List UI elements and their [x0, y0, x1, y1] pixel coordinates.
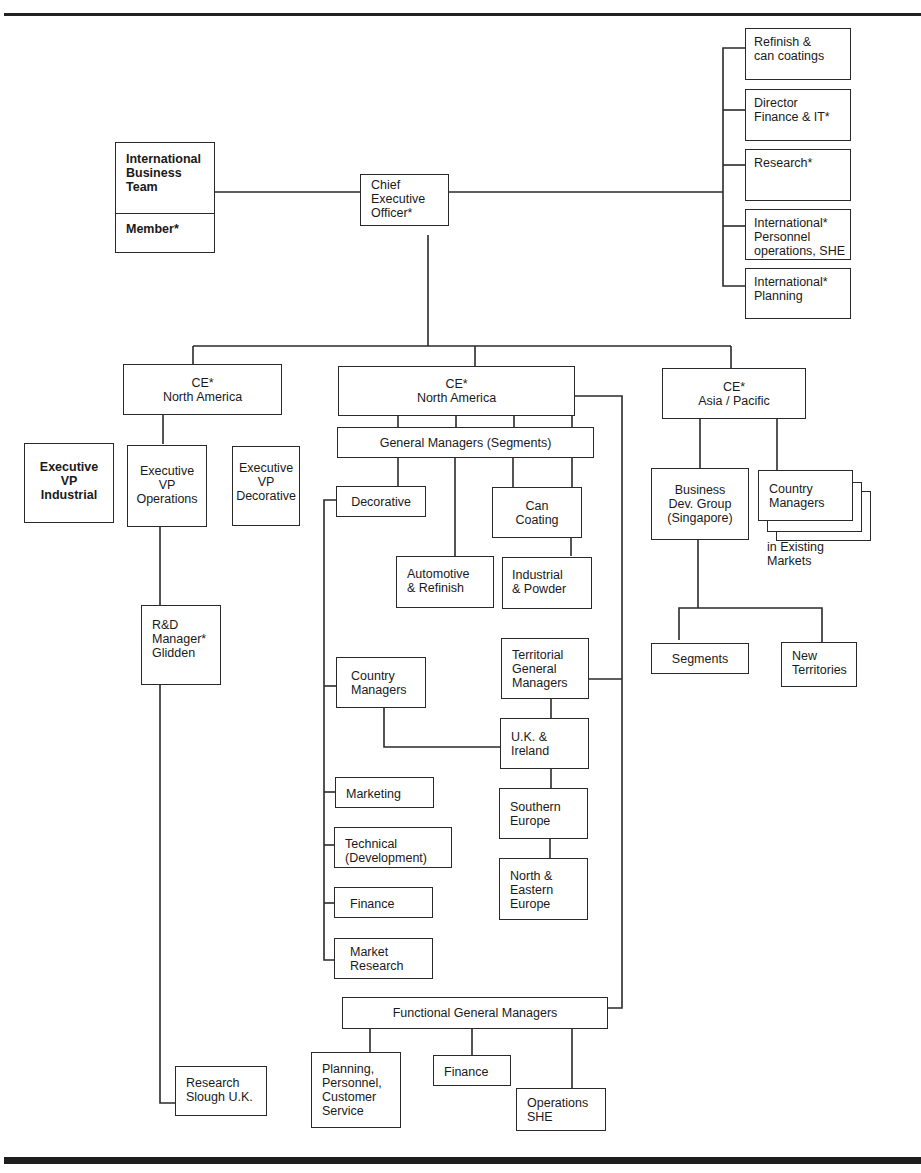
staff-research-box: Research*: [745, 149, 851, 201]
ceo-box: Chief Executive Officer*: [360, 174, 449, 226]
country-managers-europe-box: Country Managers: [336, 657, 426, 708]
gm-segments-box: General Managers (Segments): [337, 427, 594, 458]
staff-finance-it-box: Director Finance & IT*: [745, 89, 851, 141]
evp-industrial-box: Executive VP Industrial: [24, 443, 114, 523]
rd-label: R&D Manager* Glidden: [142, 606, 220, 660]
can-coating-box: Can Coating: [492, 487, 582, 538]
north-eastern-europe-box: North & Eastern Europe: [499, 858, 588, 920]
uk-ireland-box: U.K. & Ireland: [500, 718, 589, 769]
unit-label: Finance: [335, 888, 432, 911]
region-label: U.K. & Ireland: [501, 719, 588, 758]
staff-label: Refinish & can coatings: [746, 29, 850, 63]
region-label: North & Eastern Europe: [500, 859, 587, 911]
segment-label: Industrial & Powder: [503, 558, 591, 596]
ce-north-america-left-box: CE* North America: [123, 364, 282, 415]
evp-label: Executive VP Industrial: [40, 460, 98, 502]
segment-label: Decorative: [351, 495, 411, 509]
staff-label: Director Finance & IT*: [746, 90, 850, 124]
country-managers-asia-box: Country Managers: [758, 470, 853, 521]
unit-label: Technical (Development): [335, 828, 451, 865]
business-dev-group-box: Business Dev. Group (Singapore): [651, 468, 749, 540]
ibt-divider: [116, 213, 214, 214]
bdg-label: Business Dev. Group (Singapore): [667, 483, 732, 525]
region-label: Southern Europe: [500, 789, 587, 828]
ce-label: CE* North America: [417, 377, 496, 405]
evp-label: Executive VP Operations: [136, 464, 197, 506]
staff-refinish-box: Refinish & can coatings: [745, 28, 851, 80]
bottom-rule: [4, 1157, 921, 1164]
segment-label: Automotive & Refinish: [397, 557, 493, 595]
evp-decorative-box: Executive VP Decorative: [232, 446, 300, 526]
segments-asia-box: Segments: [651, 643, 749, 674]
research-slough-box: Research Slough U.K.: [175, 1066, 267, 1116]
automotive-refinish-box: Automotive & Refinish: [396, 556, 494, 608]
ce-asia-pacific-box: CE* Asia / Pacific: [662, 368, 806, 419]
new-territories-box: New Territories: [781, 642, 857, 687]
ibt-title: International Business Team: [116, 143, 214, 194]
territorial-gm-box: Territorial General Managers: [501, 638, 589, 699]
technical-development-box: Technical (Development): [334, 827, 452, 868]
staff-label: International* Personnel operations, SHE: [746, 210, 850, 258]
research-label: Research Slough U.K.: [176, 1067, 266, 1104]
staff-label: Research*: [746, 150, 850, 170]
industrial-powder-box: Industrial & Powder: [502, 557, 592, 609]
international-business-team-box: International Business Team Member*: [115, 142, 215, 253]
decorative-box: Decorative: [336, 486, 426, 517]
existing-markets-note: in Existing Markets: [767, 540, 824, 568]
segment-label: Can Coating: [515, 499, 558, 527]
finance-functional-box: Finance: [433, 1055, 511, 1086]
southern-europe-box: Southern Europe: [499, 788, 588, 839]
ce-north-america-middle-box: CE* North America: [338, 366, 575, 416]
staff-label: International* Planning: [746, 269, 850, 303]
functional-gm-box: Functional General Managers: [342, 997, 608, 1029]
unit-label: Market Research: [335, 939, 432, 973]
marketing-box: Marketing: [335, 777, 434, 808]
planning-personnel-box: Planning, Personnel, Customer Service: [311, 1052, 401, 1128]
evp-operations-box: Executive VP Operations: [127, 445, 207, 527]
new-territories-label: New Territories: [782, 643, 856, 677]
functional-unit-label: Finance: [434, 1056, 510, 1079]
functional-label: Functional General Managers: [393, 1006, 558, 1020]
ceo-label: Chief Executive Officer*: [361, 175, 448, 220]
segments-label: Segments: [672, 652, 728, 666]
unit-label: Country Managers: [337, 658, 425, 697]
territorial-label: Territorial General Managers: [502, 639, 588, 690]
staff-personnel-box: International* Personnel operations, SHE: [745, 209, 851, 260]
market-research-box: Market Research: [334, 938, 433, 979]
operations-she-box: Operations SHE: [516, 1088, 606, 1131]
functional-unit-label: Operations SHE: [517, 1089, 605, 1124]
unit-label: Marketing: [336, 778, 433, 801]
finance-decorative-box: Finance: [334, 887, 433, 918]
evp-label: Executive VP Decorative: [236, 461, 296, 503]
ce-label: CE* North America: [163, 376, 242, 404]
rd-manager-glidden-box: R&D Manager* Glidden: [141, 605, 221, 685]
country-managers-label: Country Managers: [759, 471, 852, 510]
staff-planning-box: International* Planning: [745, 268, 851, 319]
ce-label: CE* Asia / Pacific: [698, 380, 770, 408]
functional-unit-label: Planning, Personnel, Customer Service: [312, 1053, 400, 1118]
ibt-member: Member*: [126, 222, 179, 236]
gm-segments-label: General Managers (Segments): [380, 436, 552, 450]
